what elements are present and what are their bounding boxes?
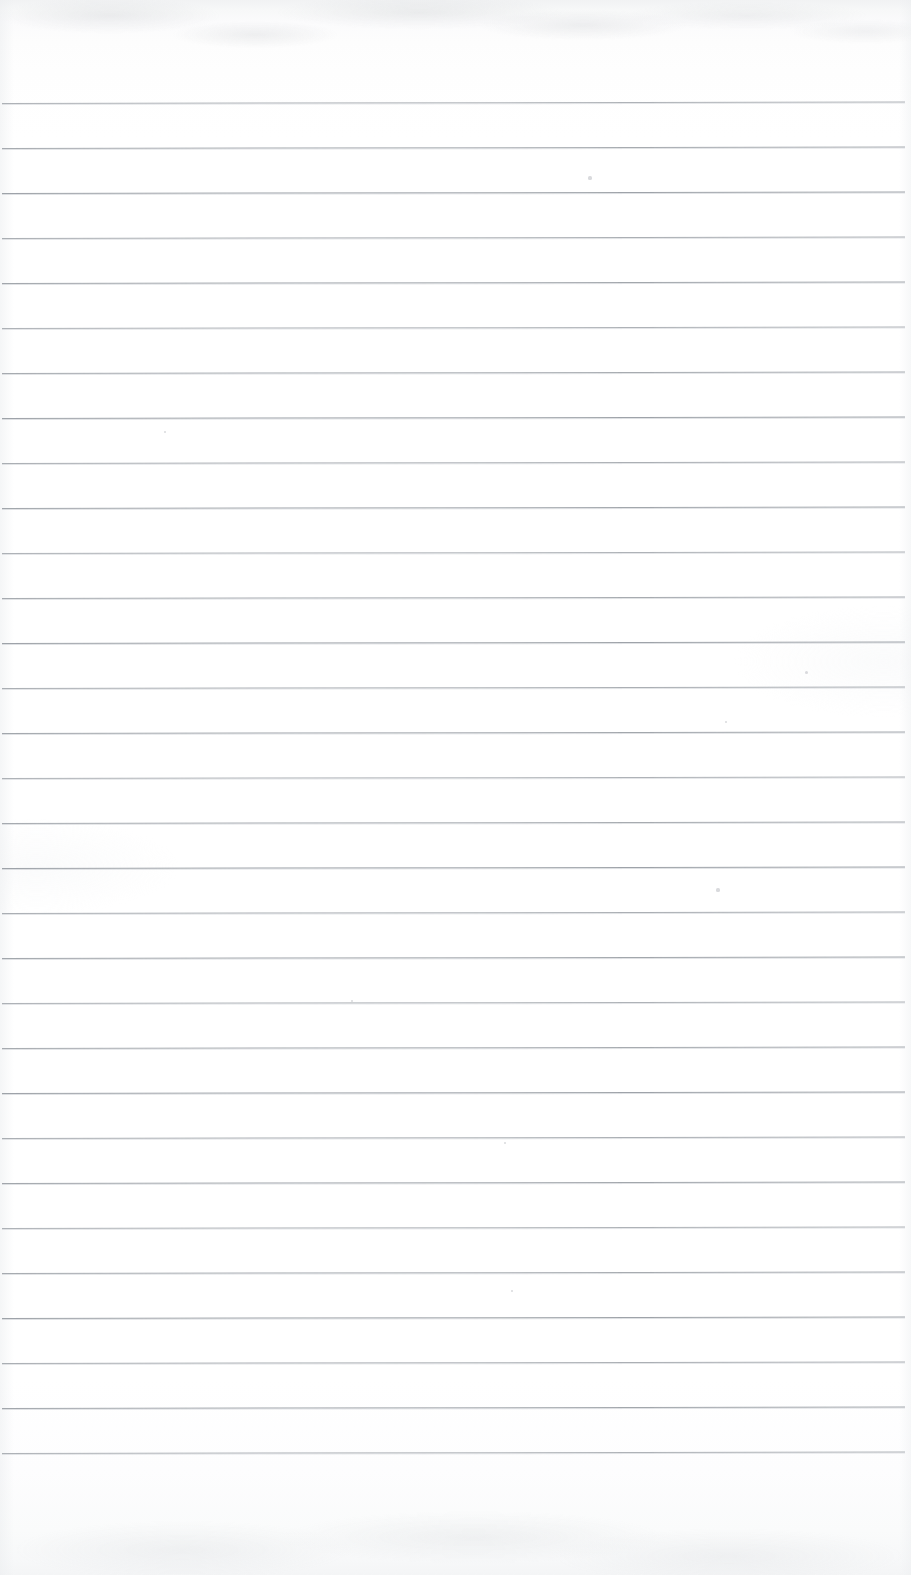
notebook-page [0,0,911,1575]
writing-area[interactable] [0,103,911,1460]
